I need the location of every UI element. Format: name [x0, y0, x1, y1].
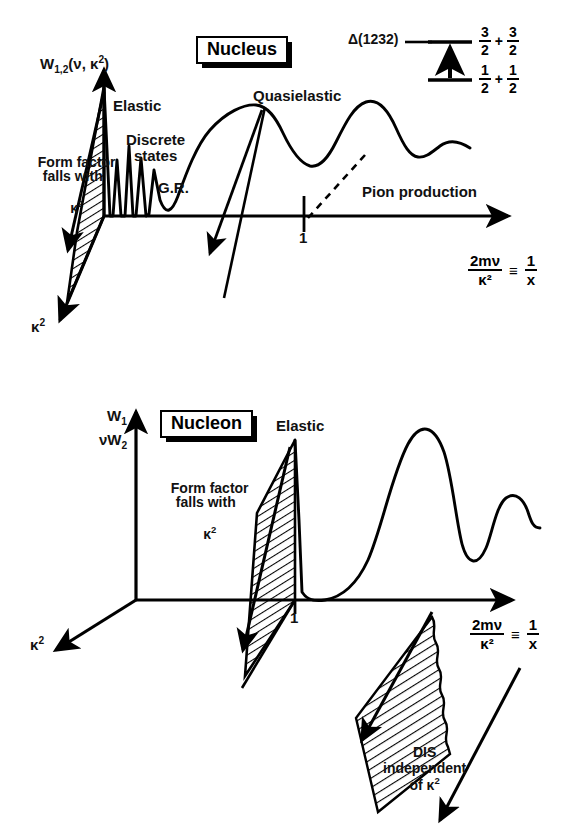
nucleus-formula-rhs: 1 x [525, 252, 537, 288]
upper-left-den: 2 [479, 42, 491, 58]
form-factor-kappa: κ [70, 199, 78, 215]
dis-arrow-lower [440, 668, 520, 820]
delta-upper-left-frac: 3 2 [479, 24, 491, 58]
nucleon-elastic-label: Elastic [276, 418, 324, 434]
dis-kappa-sup: 2 [434, 775, 439, 786]
delta-resonance-level-scheme [405, 42, 472, 80]
delta-lower-right-frac: 1 2 [507, 62, 519, 96]
lower-left-den: 2 [479, 80, 491, 96]
w-args: (ν, κ [68, 55, 98, 72]
dis-annotation: DIS independent of κ2 [383, 745, 466, 794]
nucleon-formula-lhs: 2mν κ² [470, 616, 504, 652]
dis-line-3: of κ [410, 777, 435, 793]
nucleon-z-axis [56, 600, 136, 650]
nucleon-form-factor-text: Form factor falls with [171, 480, 249, 511]
w-subscript: 1,2 [54, 64, 68, 75]
lower-right-num: 1 [507, 62, 519, 80]
nucleus-x-axis-formula: 2mν κ² ≡ 1 x [468, 252, 537, 288]
nucleus-pion-production-label: Pion production [362, 184, 477, 200]
w1-subscript: 1 [121, 416, 127, 427]
nucleon-y-axis-label-nuw2: νW2 [99, 432, 127, 452]
w2-symbol: W [107, 431, 121, 448]
upper-plus: + [495, 33, 503, 49]
nucleus-title-text: Nucleus [207, 39, 277, 59]
nucleus-form-factor-label: Form factor falls with κ2 [30, 140, 116, 215]
dis-line-1: DIS [413, 744, 436, 760]
lower-plus: + [495, 71, 503, 87]
w1-symbol: W [107, 407, 121, 424]
lhs-numerator: 2mν [468, 252, 502, 271]
w-close-paren: ) [104, 55, 109, 72]
lhs-denominator: κ² [468, 271, 502, 288]
delta-label: Δ(1232) [348, 32, 399, 47]
upper-right-den: 2 [507, 42, 519, 58]
nucleus-y-axis-label: W1,2(ν, κ2) [40, 55, 109, 76]
form-factor-text: Form factor falls with [38, 154, 116, 185]
nucleon-depth-axis-label: κ2 [30, 636, 44, 653]
kappa-exponent: 2 [39, 317, 45, 328]
nucleus-quasielastic-depth-line [224, 107, 265, 298]
upper-left-num: 3 [479, 24, 491, 42]
w-symbol: W [40, 55, 54, 72]
nucleon-y-axis-label-w1: W1 [107, 408, 127, 428]
nucleus-tick-one-label: 1 [299, 230, 307, 246]
nucleus-discrete-states-label: Discrete states [126, 132, 185, 164]
nucleon-kappa-exponent: 2 [38, 635, 44, 646]
nucleon-formula-rhs: 1 x [527, 616, 539, 652]
nucleus-quasielastic-arrow [210, 110, 262, 253]
upper-right-num: 3 [507, 24, 519, 42]
nucleon-x-axis-formula: 2mν κ² ≡ 1 x [470, 616, 539, 652]
nucleus-title-box: Nucleus [196, 36, 288, 64]
w2-subscript: 2 [122, 440, 128, 451]
nucleus-elastic-label: Elastic [113, 98, 161, 114]
nucleus-giant-resonance-label: G.R. [158, 180, 189, 196]
delta-lower-state-label: 1 2 + 1 2 [479, 62, 519, 96]
delta-upper-state-label: 3 2 + 3 2 [479, 24, 519, 58]
nucleon-form-factor-kappa: κ [203, 525, 211, 541]
nucleon-rhs-denominator: x [527, 635, 539, 652]
nucleon-title-text: Nucleon [171, 413, 242, 433]
nucleon-equiv-sign: ≡ [511, 626, 520, 643]
delta-upper-right-frac: 3 2 [507, 24, 519, 58]
nucleon-lhs-denominator: κ² [470, 635, 504, 652]
rhs-denominator: x [525, 271, 537, 288]
nucleus-quasielastic-label: Quasielastic [253, 88, 341, 104]
nucleon-lhs-numerator: 2mν [470, 616, 504, 635]
form-factor-kappa-sup: 2 [78, 198, 83, 209]
nucleon-panel [56, 412, 540, 688]
delta-lower-left-frac: 1 2 [479, 62, 491, 96]
nucleon-form-factor-label: Form factor falls with κ2 [163, 466, 249, 541]
nucleus-depth-axis-label: κ2 [31, 318, 45, 335]
nucleon-tick-one-label: 1 [290, 610, 298, 626]
lower-right-den: 2 [507, 80, 519, 96]
nucleon-title-box: Nucleon [160, 410, 253, 438]
dis-line-2: independent [383, 760, 466, 776]
lower-left-num: 1 [479, 62, 491, 80]
nucleon-response-curve [295, 429, 540, 601]
nucleus-formula-lhs: 2mν κ² [468, 252, 502, 288]
nucleon-rhs-numerator: 1 [527, 616, 539, 635]
nucleon-form-factor-kappa-sup: 2 [211, 524, 216, 535]
rhs-numerator: 1 [525, 252, 537, 271]
equiv-sign: ≡ [509, 262, 518, 279]
